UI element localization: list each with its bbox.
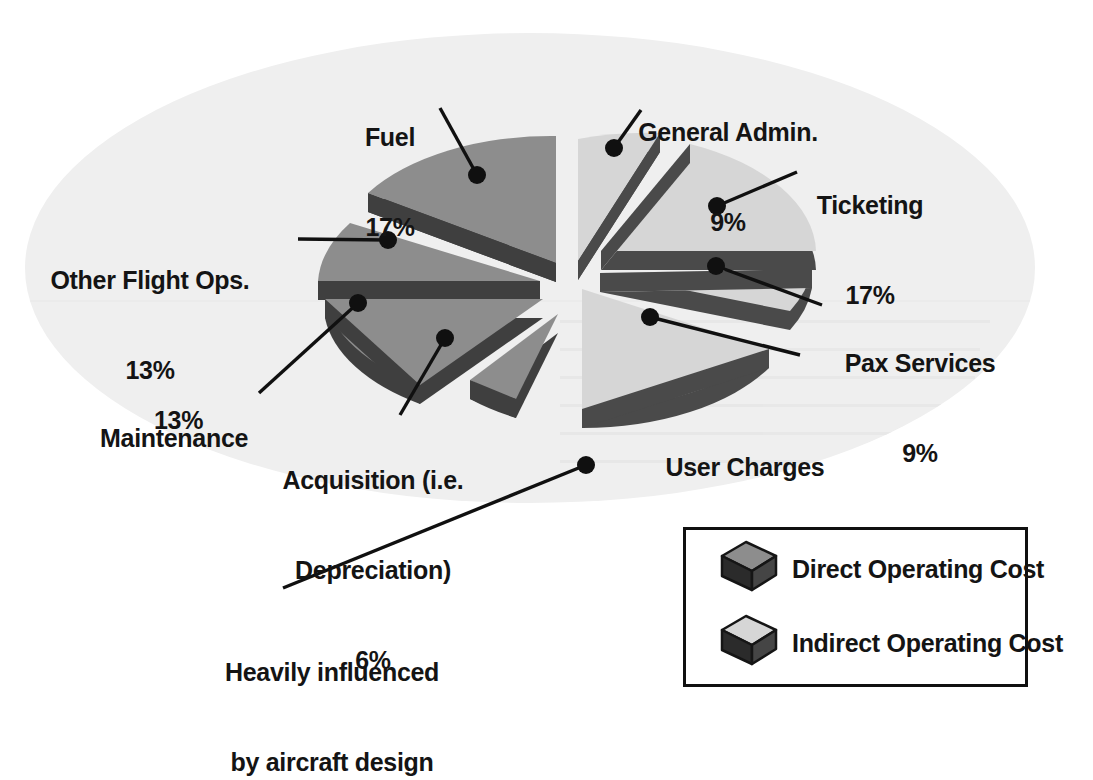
legend-label-direct: Direct Operating Cost <box>792 555 1044 584</box>
annotation-line-1: Heavily influenced <box>172 657 492 687</box>
slice-label-general-admin: General Admin. 9% <box>588 57 868 297</box>
slice-label-general-admin-pct: 9% <box>588 207 868 237</box>
slice-label-fuel-pct: 17% <box>300 212 480 242</box>
legend-item-indirect[interactable]: Indirect Operating Cost <box>686 612 1025 674</box>
legend-swatch-indirect-cube-icon <box>702 612 780 674</box>
chart-legend: Direct Operating Cost Indirect Operating… <box>683 527 1028 687</box>
annotation-heavily-influenced: Heavily influenced by aircraft design <box>172 597 492 780</box>
slice-label-other-flight-ops-name: Other Flight Ops. <box>5 265 295 295</box>
slice-label-pax-services-pct: 9% <box>800 438 1040 468</box>
legend-swatch-direct-cube-icon <box>702 538 780 600</box>
slice-label-acquisition-name-line2: Depreciation) <box>228 555 518 585</box>
slice-label-maintenance-pct: 13% <box>154 405 234 435</box>
legend-label-indirect: Indirect Operating Cost <box>792 629 1063 658</box>
slice-label-general-admin-name: General Admin. <box>588 117 868 147</box>
slice-label-fuel-name: Fuel <box>300 122 480 152</box>
legend-item-direct[interactable]: Direct Operating Cost <box>686 538 1025 600</box>
annotation-line-2: by aircraft design <box>172 747 492 777</box>
slice-label-acquisition-name-line1: Acquisition (i.e. <box>228 465 518 495</box>
slice-label-fuel: Fuel 17% <box>300 62 480 302</box>
